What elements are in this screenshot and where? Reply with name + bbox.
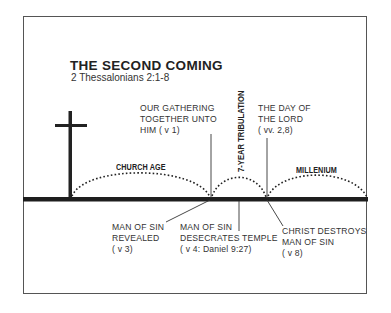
day-of-lord-label: THE DAY OF THE LORD ( vv. 2,8) bbox=[258, 103, 311, 136]
diagram-subtitle: 2 Thessalonians 2:1-8 bbox=[71, 72, 169, 83]
church-age-label: CHURCH AGE bbox=[116, 162, 166, 172]
desecrates-label: MAN OF SIN DESECRATES TEMPLE ( v 4: Dani… bbox=[180, 222, 278, 255]
church-age-arc bbox=[72, 173, 210, 197]
diagram-title: THE SECOND COMING bbox=[70, 58, 223, 73]
revealed-leader bbox=[166, 200, 210, 222]
millenium-label: MILLENIUM bbox=[296, 165, 337, 175]
revealed-label: MAN OF SIN REVEALED ( v 3) bbox=[112, 222, 164, 255]
destroys-label: CHRIST DESTROYS MAN OF SIN ( v 8) bbox=[282, 226, 367, 259]
millenium-arc bbox=[268, 175, 367, 197]
tribulation-label: 7-YEAR TRIBULATION bbox=[236, 91, 246, 172]
gathering-label: OUR GATHERING TOGETHER UNTO HIM ( v 1) bbox=[140, 103, 217, 136]
timeline-bar bbox=[23, 197, 368, 202]
timeline-graphic bbox=[0, 0, 391, 313]
tribulation-arc bbox=[212, 177, 266, 197]
